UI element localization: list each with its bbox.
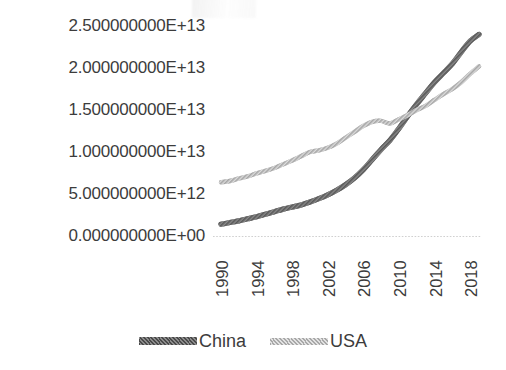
legend-entry-usa[interactable]: USA: [270, 332, 367, 350]
usa-line-swatch: [270, 338, 328, 345]
china-line-swatch: [139, 337, 197, 345]
chart-legend: ChinaUSA: [0, 326, 506, 356]
x-tick-label: 2018: [463, 260, 480, 297]
legend-entry-china[interactable]: China: [139, 332, 246, 350]
x-tick-label: 1998: [285, 260, 302, 297]
legend-label: China: [199, 332, 246, 350]
x-tick-label: 1990: [214, 260, 231, 297]
legend-label: USA: [330, 332, 367, 350]
gdp-comparison-line-chart: 2.500000000E+132.000000000E+131.50000000…: [0, 0, 506, 370]
x-tick-label: 2014: [428, 260, 445, 297]
x-tick-label: 2002: [321, 260, 338, 297]
x-axis: 19901994199820022006201020142018: [0, 0, 506, 310]
x-tick-label: 2010: [392, 260, 409, 297]
x-tick-label: 1994: [250, 260, 267, 297]
x-tick-label: 2006: [356, 260, 373, 297]
